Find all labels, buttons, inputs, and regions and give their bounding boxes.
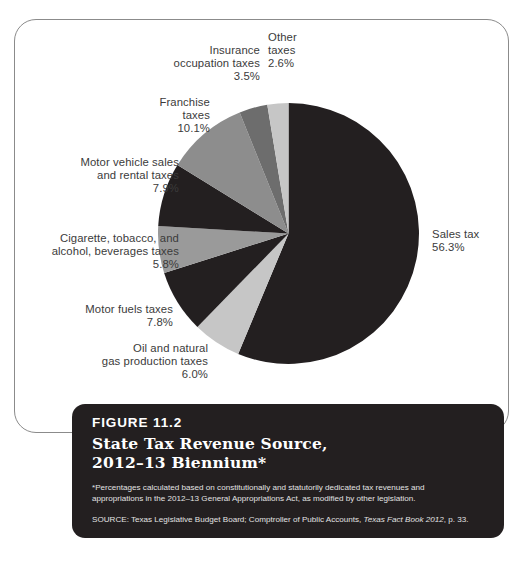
label-sales-tax: Sales tax 56.3% <box>432 228 520 254</box>
figure-number: FIGURE 11.2 <box>92 415 484 430</box>
label-other-taxes: Other taxes 2.6% <box>268 31 338 71</box>
figure-title: State Tax Revenue Source, 2012–13 Bienni… <box>92 434 484 472</box>
source-prefix: SOURCE: Texas Legislative Budget Board; … <box>92 515 364 524</box>
figure-source: SOURCE: Texas Legislative Budget Board; … <box>92 514 484 525</box>
label-motor-fuels-taxes: Motor fuels taxes 7.8% <box>46 303 173 329</box>
label-motor-vehicle-sales-and-rental-taxes: Motor vehicle sales and rental taxes 7.9… <box>46 156 179 196</box>
label-insurance-occupation-taxes: Insurance occupation taxes 3.5% <box>138 44 260 84</box>
label-franchise-taxes: Franchise taxes 10.1% <box>110 96 210 136</box>
label-cigarette-tobacco-alcohol-beverages-taxes: Cigarette, tobacco, and alcohol, beverag… <box>24 232 179 272</box>
label-oil-and-natural-gas-production-taxes: Oil and natural gas production taxes 6.0… <box>72 342 208 382</box>
source-title: Texas Fact Book 2012 <box>364 515 444 524</box>
figure-caption-panel: FIGURE 11.2 State Tax Revenue Source, 20… <box>72 404 504 538</box>
figure-container: Insurance occupation taxes 3.5% Other ta… <box>0 0 521 568</box>
source-suffix: , p. 33. <box>444 515 469 524</box>
figure-footnote: *Percentages calculated based on constit… <box>92 482 448 505</box>
